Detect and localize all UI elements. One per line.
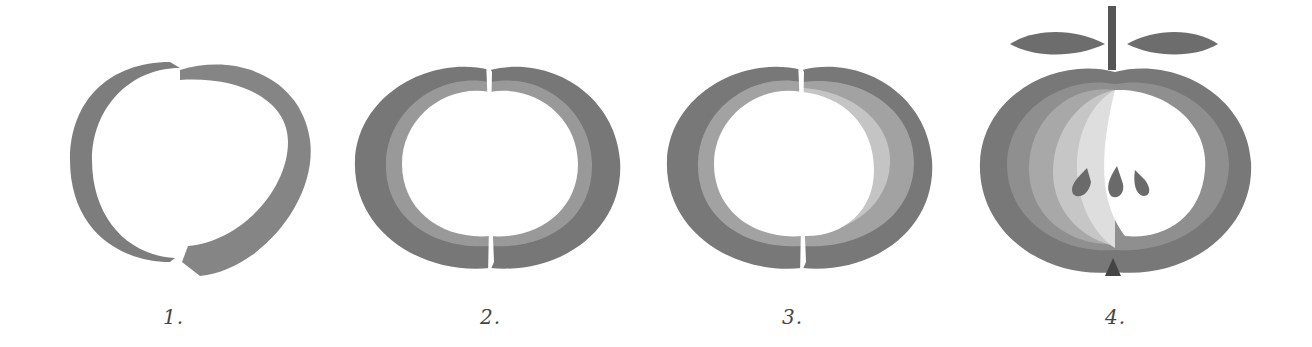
finished-apple-drawing (965, 0, 1265, 300)
apple-outline-step-1-drawing (30, 0, 330, 300)
apple-outline-step-3-drawing (652, 0, 952, 300)
step-label-4: 4. (1105, 305, 1126, 329)
step-label-2: 2. (480, 305, 501, 329)
left-leaf (1010, 32, 1105, 55)
step-4: 4. (965, 0, 1265, 347)
step-label-1: 1. (163, 305, 184, 329)
step-3: 3. (652, 0, 952, 347)
step-2: 2. (340, 0, 640, 347)
step-label-3: 3. (782, 305, 803, 329)
step-1: 1. (30, 0, 330, 347)
apple-outline-step-2-drawing (340, 0, 640, 300)
right-leaf (1127, 32, 1218, 55)
